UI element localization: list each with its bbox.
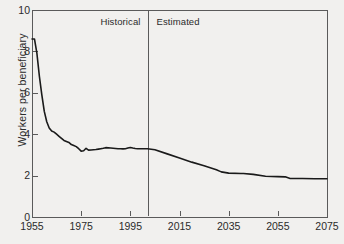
tick-marks (33, 11, 328, 218)
plot-area (0, 0, 344, 244)
chart-container: Workers per beneficiary 0246810 19551975… (0, 0, 344, 244)
data-series-line (32, 39, 327, 179)
axes-frame (33, 11, 328, 218)
